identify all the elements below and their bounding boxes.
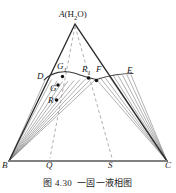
label-R: R <box>48 96 54 105</box>
dot-R1 <box>87 76 91 80</box>
label-G1: G1 <box>57 62 67 73</box>
label-E: E <box>127 66 133 75</box>
triangle-outline <box>9 24 167 161</box>
label-H2O-open: (H <box>65 9 75 19</box>
dot-F <box>95 79 99 83</box>
label-D: D <box>37 72 44 81</box>
figure-caption: 图 4.30一固一液相图 <box>0 176 176 189</box>
figure-container: A(H2O) B C Q S D G1 G R R1 F E 图 4.30一固一… <box>0 0 176 193</box>
label-F: F <box>96 65 102 74</box>
label-R1: R1 <box>82 65 91 76</box>
label-G1-sub: 1 <box>64 66 67 73</box>
phase-diagram-svg <box>0 0 176 174</box>
caption-number: 图 4.30 <box>43 178 72 188</box>
label-R1-sub: 1 <box>88 69 91 76</box>
dot-G1 <box>61 75 64 78</box>
caption-text: 一固一液相图 <box>77 178 133 188</box>
label-Q: Q <box>46 161 53 170</box>
label-A-H2O: A(H2O) <box>59 10 87 21</box>
label-H2O-close: O) <box>77 9 87 19</box>
label-C: C <box>165 161 171 170</box>
label-B: B <box>2 161 8 170</box>
dashed-line-A-S <box>75 26 112 158</box>
dot-R <box>55 98 58 101</box>
label-S: S <box>108 161 113 170</box>
tie-line-fan-right <box>96 75 167 161</box>
label-G: G <box>50 84 57 93</box>
